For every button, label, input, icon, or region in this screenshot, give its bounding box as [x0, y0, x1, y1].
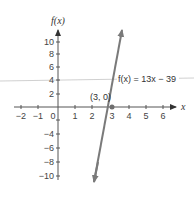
x-intercept-point: [110, 105, 115, 110]
x-tick-label: 6: [160, 111, 165, 121]
origin-label: 0: [50, 111, 55, 121]
y-tick-label: 8: [49, 49, 54, 59]
function-line: [94, 30, 122, 182]
x-tick-label: −1: [33, 111, 43, 121]
y-axis-label: f(x): [51, 15, 66, 27]
y-tick-label: −10: [39, 171, 54, 181]
y-tick-label: 2: [49, 89, 54, 99]
y-tick-label: −8: [44, 157, 54, 167]
x-tick-label: 4: [126, 111, 131, 121]
x-tick-label: 3: [109, 111, 114, 121]
x-axis-label: x: [180, 101, 186, 112]
point-label: (3, 0): [90, 92, 111, 102]
x-tick-label: 1: [72, 111, 77, 121]
graph: −2 −1 0 1 2 3 4 5 6 10 8 6 4 2 −4 −6 −8 …: [0, 0, 194, 197]
y-tick-label: 10: [44, 37, 54, 47]
x-tick-label: 5: [143, 111, 148, 121]
y-tick-label: −4: [44, 129, 54, 139]
y-tick-label: 4: [49, 75, 54, 85]
y-tick-label: 6: [49, 62, 54, 72]
x-tick-label: 2: [89, 111, 94, 121]
equation-label: f(x) = 13x − 39: [118, 74, 176, 84]
function-line-lower-arrow: [94, 162, 98, 182]
x-tick-label: −2: [16, 111, 26, 121]
y-tick-label: −6: [44, 143, 54, 153]
